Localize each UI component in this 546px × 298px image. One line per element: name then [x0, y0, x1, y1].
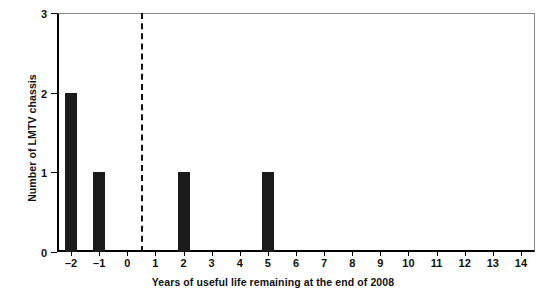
x-axis-tick-label: –1	[93, 257, 105, 269]
bar	[178, 172, 190, 252]
x-axis-tick-label: –2	[65, 257, 77, 269]
x-axis-tick	[99, 252, 100, 256]
y-axis-tick: 1	[51, 172, 57, 173]
x-axis-tick-label: 7	[321, 257, 327, 269]
y-axis-tick-label: 0	[41, 247, 47, 259]
bar	[93, 172, 105, 252]
y-axis-tick-label: 1	[41, 167, 47, 179]
x-axis-tick-label: 14	[515, 257, 527, 269]
bar	[65, 93, 77, 252]
x-axis-tick	[380, 252, 381, 256]
x-axis-tick	[324, 252, 325, 256]
bar	[262, 172, 274, 252]
x-axis-tick-label: 9	[377, 257, 383, 269]
x-axis-tick	[268, 252, 269, 256]
x-axis-tick	[127, 252, 128, 256]
x-axis-tick-label: 3	[209, 257, 215, 269]
x-axis-tick-label: 6	[293, 257, 299, 269]
x-axis-tick-label: 11	[431, 257, 443, 269]
y-axis-tick-label: 2	[41, 88, 47, 100]
x-axis-tick-label: 12	[459, 257, 471, 269]
x-axis-tick	[212, 252, 213, 256]
x-axis-tick-label: 2	[180, 257, 186, 269]
plot-area: 0123–2–101234567891011121314	[57, 13, 535, 252]
x-axis-title: Years of useful life remaining at the en…	[0, 276, 546, 288]
x-axis-tick	[352, 252, 353, 256]
x-axis-tick-label: 4	[237, 257, 243, 269]
x-axis-tick-label: 0	[124, 257, 130, 269]
x-axis-tick-label: 1	[152, 257, 158, 269]
x-axis-tick-label: 13	[487, 257, 499, 269]
x-axis-tick	[184, 252, 185, 256]
x-axis-tick	[408, 252, 409, 256]
bar-chart: Number of LMTV chassis 0123–2–1012345678…	[0, 0, 546, 298]
reference-line-icon	[141, 13, 143, 252]
x-axis-tick-label: 5	[265, 257, 271, 269]
x-axis-tick	[296, 252, 297, 256]
x-axis-tick	[465, 252, 466, 256]
x-axis-tick	[437, 252, 438, 256]
y-axis-tick: 0	[51, 252, 57, 253]
y-axis-tick-label: 3	[41, 8, 47, 20]
x-axis-tick	[155, 252, 156, 256]
x-axis-tick	[240, 252, 241, 256]
x-axis-tick	[493, 252, 494, 256]
y-axis-tick: 2	[51, 93, 57, 94]
x-axis-tick-label: 8	[349, 257, 355, 269]
x-axis-tick-label: 10	[402, 257, 414, 269]
x-axis-tick	[71, 252, 72, 256]
y-axis-tick: 3	[51, 13, 57, 14]
x-axis-tick	[521, 252, 522, 256]
y-axis-title: Number of LMTV chassis	[26, 38, 38, 238]
